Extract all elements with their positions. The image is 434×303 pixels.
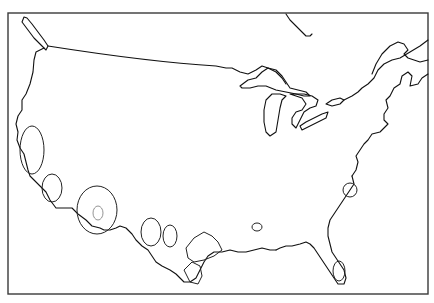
northern-border [48, 46, 286, 84]
south-texas-region [184, 262, 202, 284]
northern-california-region [20, 126, 44, 174]
new-mexico-region-west [141, 218, 161, 246]
map-canvas [0, 0, 434, 303]
pacific-coast [16, 48, 276, 282]
vancouver-island [22, 17, 48, 50]
lake-ontario [326, 98, 344, 106]
south-florida-region [333, 261, 345, 281]
atlantic-coast [276, 176, 354, 284]
southern-california-region [42, 174, 62, 202]
hudson-bay-fragment [286, 14, 312, 36]
us-outline-map [0, 0, 434, 303]
lake-michigan [264, 94, 286, 136]
louisiana-inland-region [252, 223, 262, 231]
arizona-inner-region [93, 206, 103, 220]
texas-region [186, 232, 222, 262]
new-mexico-region-east [163, 225, 177, 247]
st-lawrence-river [344, 40, 428, 100]
lake-erie [300, 112, 328, 130]
